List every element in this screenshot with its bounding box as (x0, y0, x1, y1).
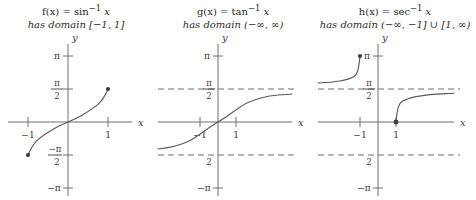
x-axis-label: x (138, 117, 144, 128)
y-tick-label-neg-pi-over-2-den: 2 (366, 157, 371, 167)
y-tick-label-neg-pi-over-2-den: 2 (206, 157, 211, 167)
y-tick-label-pi-over-2-num: π (54, 78, 60, 88)
panel-arcsec-plot: x y −1 1 π π 2 2 −π (314, 30, 476, 200)
y-tick-label-neg-pi: −π (357, 183, 371, 193)
y-axis-label: y (71, 32, 78, 43)
panel-arcsin-plot: x y −1 1 π π 2 −π 2 −π (0, 30, 152, 200)
arcsin-endpoint-lower (26, 153, 30, 157)
superscript-neg-one: −1 (410, 3, 422, 13)
y-tick-label-pi: π (364, 51, 370, 61)
x-tick-label-1: 1 (105, 130, 111, 140)
panel-arctan-plot: x y −1 1 π π 2 2 −π (152, 30, 314, 200)
y-tick-label-pi-over-2-den: 2 (366, 91, 371, 101)
x-tick-label-neg1: −1 (353, 130, 366, 140)
y-tick-label-neg-pi-over-2-den: 2 (54, 157, 59, 167)
y-tick-label-neg-pi: −π (47, 183, 61, 193)
x-axis-label: x (298, 117, 304, 128)
y-tick-label-pi: π (54, 51, 60, 61)
panel-arctan: g(x) = tan−1 x has domain (−∞, ∞) x y −1… (152, 0, 314, 200)
y-tick-label-pi-over-2-den: 2 (206, 91, 211, 101)
y-tick-label-pi-over-2-num: π (366, 78, 372, 88)
inverse-trig-functions-figure: f(x) = sin−1 x has domain [−1, 1] x y −1… (0, 0, 476, 200)
y-tick-label-pi-over-2-den: 2 (54, 91, 59, 101)
arcsin-endpoint-upper (106, 87, 110, 91)
superscript-neg-one: −1 (248, 3, 260, 13)
arcsec-endpoint-left (358, 54, 362, 58)
panel-arcsec-title-line1: h(x) = sec−1 x (314, 2, 476, 18)
arcsec-curve-right-branch (396, 93, 454, 122)
y-tick-label-neg-pi-over-2-num: −π (49, 144, 62, 154)
panel-arcsin: f(x) = sin−1 x has domain [−1, 1] x y −1… (0, 0, 152, 200)
superscript-neg-one: −1 (89, 3, 101, 13)
arcsec-curve-left-branch (318, 56, 360, 83)
arcsec-endpoint-right (394, 120, 399, 125)
x-tick-label-neg1: −1 (21, 130, 34, 140)
x-tick-label-1: 1 (233, 130, 239, 140)
x-tick-label-1: 1 (393, 130, 399, 140)
panel-arctan-title-line1: g(x) = tan−1 x (152, 2, 314, 18)
panel-arcsin-title-line1: f(x) = sin−1 x (0, 2, 152, 18)
panel-arcsin-title: f(x) = sin−1 x has domain [−1, 1] (0, 2, 152, 31)
panel-arctan-title: g(x) = tan−1 x has domain (−∞, ∞) (152, 2, 314, 31)
y-tick-label-neg-pi: −π (197, 183, 211, 193)
panel-arcsec: h(x) = sec−1 x has domain (−∞, −1] ∪ [1,… (314, 0, 476, 200)
y-axis-label: y (221, 32, 228, 43)
panel-arcsec-title: h(x) = sec−1 x has domain (−∞, −1] ∪ [1,… (314, 2, 476, 31)
y-tick-label-pi-over-2-num: π (206, 78, 212, 88)
x-axis-label: x (460, 117, 466, 128)
y-tick-label-pi: π (204, 51, 210, 61)
y-axis-label: y (381, 32, 388, 43)
